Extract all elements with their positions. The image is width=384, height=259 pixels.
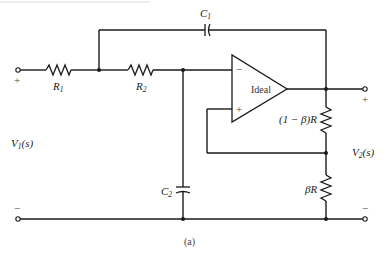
output-plus-sign: + [362, 93, 368, 105]
resistor-r1 [46, 65, 99, 75]
op-amp-noninverting-sign: + [236, 103, 242, 115]
circuit-diagram: R1 C1 R2 C2 Ideal − + [0, 0, 384, 259]
node-ground-c2 [181, 217, 185, 221]
capacitor-c1 [205, 24, 326, 89]
label-r1: R1 [52, 80, 63, 94]
output-minus-sign: − [362, 202, 368, 214]
op-amp-label: Ideal [251, 84, 271, 95]
label-v2: V2(s) [352, 146, 374, 160]
node-ground-r [324, 217, 328, 221]
label-beta-r: βR [304, 183, 317, 195]
op-amp-inverting-sign: − [236, 63, 242, 75]
capacitor-c2 [176, 70, 190, 219]
label-v1: V1(s) [11, 137, 33, 151]
input-terminal-plus [16, 68, 46, 72]
label-c1: C1 [200, 7, 211, 21]
label-r2: R2 [135, 80, 147, 94]
label-one-minus-beta-r: (1 − β)R [279, 113, 317, 126]
resistor-one-minus-beta-r [321, 89, 331, 153]
resistor-beta-r [321, 153, 331, 219]
label-c2: C2 [161, 185, 172, 199]
resistor-r2 [99, 65, 232, 75]
ground-rail [16, 217, 367, 221]
input-minus-sign: − [14, 202, 20, 214]
figure-caption: (a) [184, 236, 195, 248]
input-plus-sign: + [14, 74, 20, 86]
feedback-path-c1 [99, 30, 205, 70]
